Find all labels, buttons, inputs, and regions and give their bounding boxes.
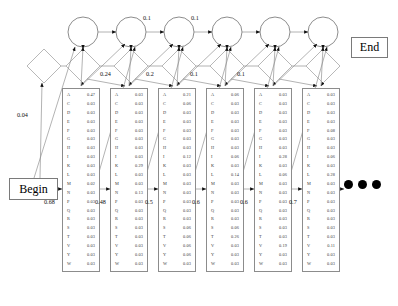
emission-row: P0.03	[305, 198, 337, 207]
amino-acid-label: W	[209, 260, 215, 269]
emission-probability: 0.03	[231, 135, 241, 144]
emission-row: K0.29	[113, 162, 145, 171]
emission-row: S0.03	[257, 224, 289, 233]
emission-row: I0.06	[305, 153, 337, 162]
emission-row: I0.28	[257, 153, 289, 162]
amino-acid-label: P	[113, 198, 118, 207]
emission-probability: 0.03	[183, 260, 193, 269]
emission-probability: 0.03	[231, 127, 241, 136]
edge-match5-to-insert6	[273, 44, 317, 86]
emission-probability: 0.03	[231, 100, 241, 109]
amino-acid-label: S	[113, 224, 118, 233]
emission-probability: 0.28	[327, 171, 337, 180]
amino-acid-label: G	[113, 135, 118, 144]
emission-probability: 0.03	[327, 162, 337, 171]
emission-row: H0.03	[113, 144, 145, 153]
emission-row: Q0.03	[209, 207, 241, 216]
transition-label-match2-to-match3: 0.5	[145, 198, 153, 205]
amino-acid-label: L	[257, 171, 262, 180]
emission-probability: 0.03	[135, 207, 145, 216]
emission-row: T0.03	[305, 233, 337, 242]
emission-probability: 0.03	[183, 127, 193, 136]
amino-acid-label: A	[65, 91, 70, 100]
emission-row: K0.03	[65, 162, 97, 171]
emission-probability: 0.03	[87, 224, 97, 233]
emission-row: Y0.06	[161, 251, 193, 260]
delete-state-2	[114, 49, 148, 83]
emission-probability: 0.28	[279, 153, 289, 162]
emission-probability: 0.03	[279, 207, 289, 216]
emission-row: V0.11	[305, 242, 337, 251]
amino-acid-label: Y	[161, 251, 166, 260]
amino-acid-label: Q	[209, 207, 214, 216]
amino-acid-label: A	[161, 91, 166, 100]
emission-probability: 0.03	[231, 180, 241, 189]
emission-probability: 0.06	[183, 242, 193, 251]
emission-probability: 0.03	[135, 215, 145, 224]
transition-label-match1-to-match2: 0.48	[95, 198, 106, 205]
emission-probability: 0.03	[279, 233, 289, 242]
emission-probability: 0.03	[135, 198, 145, 207]
edge-match1-to-insert2	[81, 44, 125, 86]
emission-row: R0.03	[113, 215, 145, 224]
amino-acid-label: H	[305, 144, 310, 153]
emission-row: F0.03	[65, 127, 97, 136]
amino-acid-label: C	[257, 100, 262, 109]
emission-row: F0.03	[113, 127, 145, 136]
amino-acid-label: G	[257, 135, 262, 144]
emission-row: P0.03	[161, 198, 193, 207]
emission-row: L0.28	[305, 171, 337, 180]
emission-probability: 0.06	[231, 91, 241, 100]
amino-acid-label: S	[305, 224, 310, 233]
match-state-emission-table: A0.47C0.03D0.03E0.03F0.03G0.03H0.03I0.03…	[62, 88, 100, 272]
end-state-box: End	[351, 37, 388, 58]
transition-label-delete3-to-delete4: 0.1	[190, 70, 198, 77]
emission-probability: 0.03	[327, 224, 337, 233]
emission-row: M0.03	[113, 180, 145, 189]
insert-state-2	[116, 17, 146, 47]
emission-probability: 0.03	[183, 118, 193, 127]
emission-probability: 0.03	[87, 135, 97, 144]
emission-probability: 0.03	[327, 215, 337, 224]
emission-probability: 0.13	[135, 189, 145, 198]
emission-probability: 0.06	[183, 251, 193, 260]
emission-row: W0.03	[65, 260, 97, 269]
emission-row: E0.03	[257, 118, 289, 127]
emission-row: W0.03	[161, 260, 193, 269]
match-state-emission-table: A0.21C0.06D0.03E0.03F0.03G0.03H0.03I0.12…	[158, 88, 196, 272]
amino-acid-label: G	[305, 135, 310, 144]
amino-acid-label: Q	[65, 207, 70, 216]
emission-probability: 0.03	[279, 162, 289, 171]
amino-acid-label: D	[161, 109, 166, 118]
emission-row: N0.13	[113, 189, 145, 198]
amino-acid-label: G	[209, 135, 214, 144]
emission-row: N0.03	[305, 189, 337, 198]
amino-acid-label: N	[161, 189, 166, 198]
amino-acid-label: E	[305, 118, 310, 127]
transition-label-begin-to-delete1: 0.04	[17, 111, 28, 118]
emission-probability: 0.03	[135, 153, 145, 162]
emission-row: V0.03	[209, 242, 241, 251]
emission-row: P0.03	[209, 198, 241, 207]
emission-probability: 0.03	[87, 127, 97, 136]
edge-match3-to-insert4	[177, 44, 221, 86]
emission-row: N0.03	[257, 189, 289, 198]
emission-probability: 0.03	[279, 91, 289, 100]
continuation-ellipsis	[344, 180, 381, 189]
amino-acid-label: M	[161, 180, 167, 189]
emission-probability: 0.03	[87, 242, 97, 251]
emission-row: I0.06	[209, 153, 241, 162]
insert-state-6	[308, 17, 338, 47]
ellipsis-dot	[344, 180, 353, 189]
emission-probability: 0.29	[135, 162, 145, 171]
emission-probability: 0.03	[87, 118, 97, 127]
amino-acid-label: Q	[113, 207, 118, 216]
emission-row: M0.02	[65, 180, 97, 189]
emission-probability: 0.06	[183, 224, 193, 233]
match-state-emission-table: A0.03C0.03D0.03E0.03F0.03G0.03H0.03I0.03…	[110, 88, 148, 272]
emission-probability: 0.03	[327, 189, 337, 198]
amino-acid-label: S	[209, 224, 214, 233]
emission-row: K0.03	[305, 162, 337, 171]
emission-probability: 0.03	[87, 260, 97, 269]
emission-row: F0.03	[209, 127, 241, 136]
